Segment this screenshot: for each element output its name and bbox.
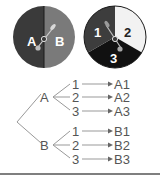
- tree-node-a: A: [40, 90, 49, 105]
- tree-branch-b-1: [53, 131, 70, 145]
- spinner-123-label-3: 3: [110, 51, 117, 66]
- spinner-123-label-2: 2: [124, 25, 131, 40]
- spinner-ab-label-b: B: [55, 34, 64, 49]
- tree-branch-root-b: [17, 122, 41, 143]
- tree-node-a-3: 3: [72, 104, 79, 119]
- tree-node-a-2: 2: [72, 90, 79, 105]
- arrowhead-icon: [108, 143, 113, 148]
- tree-branch-root-a: [17, 94, 41, 122]
- tree-branch-a-3: [53, 97, 70, 110]
- tree-node-b-1: 1: [72, 124, 79, 139]
- spinner-123: 1 2 3: [84, 6, 146, 68]
- arrowhead-icon: [108, 95, 113, 100]
- arrowheads: [108, 82, 113, 162]
- spinner-123-label-1: 1: [94, 25, 101, 40]
- tree-diagram: [17, 84, 110, 159]
- tree-branch-b-3: [53, 145, 70, 158]
- outcome-a2: A2: [114, 90, 130, 105]
- outcome-a3: A3: [114, 104, 130, 119]
- spinner-ab: A B: [12, 5, 76, 69]
- outcome-b3: B3: [114, 152, 130, 167]
- outcome-b1: B1: [114, 124, 130, 139]
- spinner-123-pivot: [112, 36, 117, 41]
- arrowhead-icon: [108, 109, 113, 114]
- tree-node-b-2: 2: [72, 138, 79, 153]
- outcome-b2: B2: [114, 138, 130, 153]
- tree-node-b-3: 3: [72, 152, 79, 167]
- spinner-123-needle-tail: [117, 46, 122, 51]
- tree-branch-a-1: [53, 84, 70, 97]
- arrowhead-icon: [108, 157, 113, 162]
- spinner-ab-label-a: A: [27, 34, 37, 49]
- tree-node-b: B: [40, 138, 49, 153]
- probability-diagram: A B 1 2 3: [0, 0, 160, 177]
- arrowhead-icon: [108, 82, 113, 87]
- spinner-ab-pivot: [41, 36, 46, 41]
- arrowhead-icon: [108, 129, 113, 134]
